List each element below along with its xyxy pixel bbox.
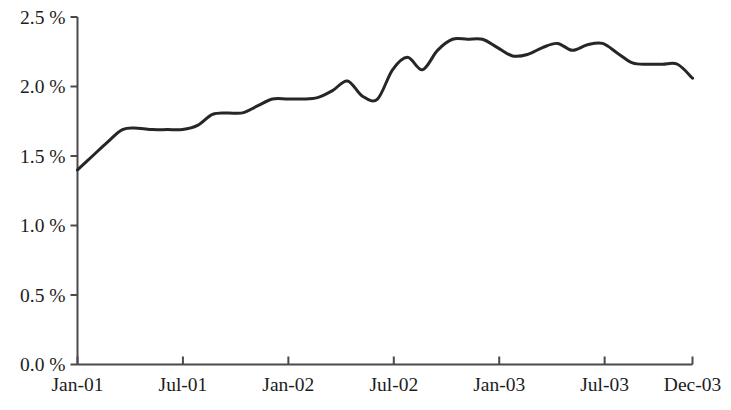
x-axis-tick-label: Jul-02 [369, 374, 418, 395]
y-axis-tick-label: 2.5 % [20, 7, 66, 28]
x-axis-tick-label: Jul-01 [159, 374, 208, 395]
chart-background [0, 0, 731, 410]
y-axis-tick-label: 1.0 % [20, 215, 66, 236]
y-axis-tick-label: 2.0 % [20, 76, 66, 97]
x-axis-tick-label: Jan-03 [473, 374, 525, 395]
line-chart: 0.0 %0.5 %1.0 %1.5 %2.0 %2.5 % Jan-01Jul… [0, 0, 731, 410]
x-axis-tick-label: Jan-01 [52, 374, 104, 395]
chart-canvas: 0.0 %0.5 %1.0 %1.5 %2.0 %2.5 % Jan-01Jul… [0, 0, 731, 410]
y-axis-tick-label: 1.5 % [20, 146, 66, 167]
x-axis-tick-label: Jan-02 [262, 374, 314, 395]
y-axis-tick-label: 0.0 % [20, 354, 66, 375]
y-axis-tick-label: 0.5 % [20, 285, 66, 306]
x-axis-tick-label: Dec-03 [664, 374, 721, 395]
x-axis-tick-label: Jul-03 [580, 374, 629, 395]
